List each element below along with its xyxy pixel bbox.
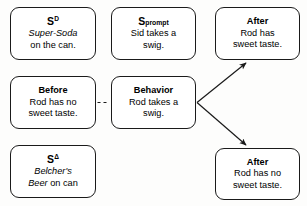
sprompt-line2: swig.: [143, 40, 164, 52]
box-discriminative-stimulus: SD Super-Soda on the can.: [10, 7, 96, 60]
box-before: Before Rod has no sweet taste.: [10, 76, 96, 129]
behavior-line1: Rod takes a: [129, 97, 178, 109]
connector-behavior-to-after-bottom: [197, 103, 246, 146]
behavior-line2: swig.: [143, 108, 164, 120]
box-after-top: After Rod has sweet taste.: [215, 7, 300, 60]
sd-symbol-superscript: D: [54, 15, 59, 22]
after-bottom-line1: Rod has no: [234, 168, 281, 180]
box-prompt-stimulus: Sprompt Sid takes a swig.: [111, 7, 196, 60]
before-heading: Before: [38, 85, 67, 97]
after-top-line1: Rod has: [240, 28, 274, 40]
after-bottom-line2: sweet taste.: [233, 180, 282, 192]
behavior-heading: Behavior: [134, 85, 173, 97]
before-line2: sweet taste.: [28, 108, 77, 120]
after-top-heading: After: [247, 16, 268, 28]
sprompt-symbol-superscript: prompt: [145, 19, 168, 26]
sdelta-symbol: SΔ: [47, 154, 59, 167]
after-top-line2: sweet taste.: [233, 39, 282, 51]
sdelta-line2: Beer on can: [28, 178, 78, 190]
sd-line1: Super-Soda: [29, 28, 78, 40]
sdelta-line1: Belcher's: [34, 166, 72, 178]
box-after-bottom: After Rod has no sweet taste.: [215, 148, 300, 200]
after-bottom-heading: After: [247, 157, 268, 169]
sdelta-symbol-superscript: Δ: [54, 153, 59, 160]
box-behavior: Behavior Rod takes a swig.: [111, 76, 196, 129]
sprompt-symbol: Sprompt: [138, 16, 168, 29]
before-line1: Rod has no: [30, 97, 77, 109]
connector-behavior-to-after-top: [197, 63, 246, 103]
sd-line2: on the can.: [30, 40, 75, 52]
abc-contingency-diagram: SD Super-Soda on the can. Sprompt Sid ta…: [0, 0, 307, 206]
sprompt-line1: Sid takes a: [131, 28, 176, 40]
sdelta-line2-italic: Beer: [28, 178, 47, 188]
box-s-delta-stimulus: SΔ Belcher's Beer on can: [10, 145, 96, 198]
sdelta-line2-regular: on can: [48, 178, 78, 188]
sd-symbol: SD: [47, 16, 59, 29]
